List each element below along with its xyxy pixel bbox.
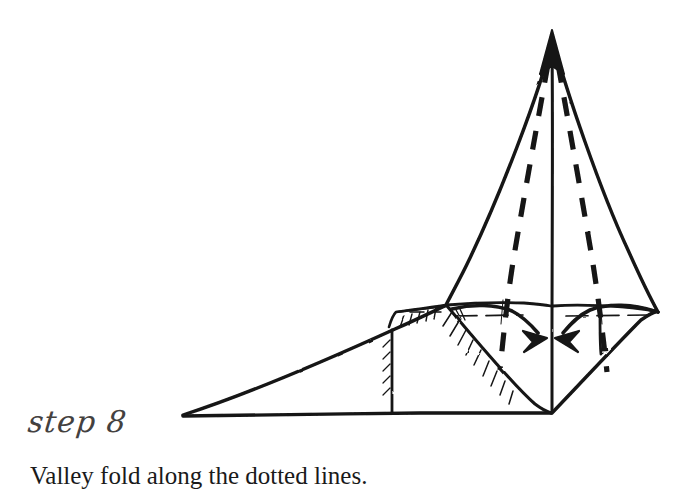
valley-fold-line-left xyxy=(500,64,548,370)
cone-left-edge xyxy=(446,44,551,305)
right-fold-arrow-head xyxy=(555,331,579,352)
base-guide-dash-left xyxy=(455,315,523,316)
cone-right-edge xyxy=(554,44,658,312)
left-fold-arrow-head xyxy=(523,331,547,352)
hatching-left-vertical xyxy=(383,340,390,395)
base-left-diagonal-crease xyxy=(447,306,551,413)
step-label: step 8 xyxy=(26,404,129,439)
tail-top-edge xyxy=(183,305,447,415)
base-bottom-edge xyxy=(183,413,551,416)
instruction-caption: Valley fold along the dotted lines. xyxy=(30,462,367,490)
page-canvas: step 8 Valley fold along the dotted line… xyxy=(0,0,690,500)
hatching-left-diagonal xyxy=(443,312,513,404)
